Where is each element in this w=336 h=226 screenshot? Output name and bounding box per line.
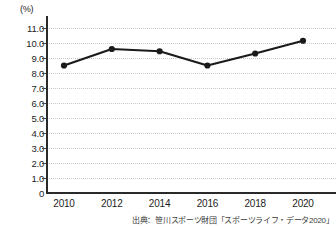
x-axis-tick-label: 2012 bbox=[101, 198, 122, 209]
gridline bbox=[46, 73, 336, 74]
gridline bbox=[46, 88, 336, 89]
y-axis-tick-label: 6.0 bbox=[2, 98, 44, 109]
gridline bbox=[46, 103, 336, 104]
y-axis-tick-label: 4.0 bbox=[2, 128, 44, 139]
gridline bbox=[46, 43, 336, 44]
y-axis-tick-label: 9.0 bbox=[2, 53, 44, 64]
y-axis-tick-label: 5.0 bbox=[2, 113, 44, 124]
x-axis-tick-label: 2010 bbox=[53, 198, 74, 209]
y-axis-tick-label: 11.0 bbox=[2, 23, 44, 34]
y-axis-unit-label: (%) bbox=[20, 4, 33, 14]
y-axis-tick-label: 7.0 bbox=[2, 83, 44, 94]
gridline bbox=[46, 28, 336, 29]
y-axis-tick-label: 0 bbox=[2, 188, 44, 199]
x-axis-line bbox=[46, 192, 336, 194]
x-axis-tick-label: 2018 bbox=[244, 198, 265, 209]
y-axis-tick-label: 8.0 bbox=[2, 68, 44, 79]
plot-area bbox=[46, 18, 336, 193]
y-axis-labels: 11.010.09.08.07.06.05.04.03.02.01.00 bbox=[0, 18, 44, 193]
y-axis-tick-label: 2.0 bbox=[2, 158, 44, 169]
y-axis-tick-label: 1.0 bbox=[2, 173, 44, 184]
gridline bbox=[46, 178, 336, 179]
y-axis-tick-label: 3.0 bbox=[2, 143, 44, 154]
gridline bbox=[46, 148, 336, 149]
chart-screenshot: (%) 11.010.09.08.07.06.05.04.03.02.01.00… bbox=[0, 0, 336, 226]
source-note: 出典：笹川スポーツ財団「スポーツライフ・データ2020」 bbox=[132, 214, 336, 225]
gridline bbox=[46, 163, 336, 164]
gridline bbox=[46, 133, 336, 134]
gridline bbox=[46, 58, 336, 59]
x-axis-tick-label: 2016 bbox=[197, 198, 218, 209]
gridline bbox=[46, 118, 336, 119]
y-axis-tick-label: 10.0 bbox=[2, 38, 44, 49]
y-axis-line bbox=[46, 16, 48, 194]
x-axis-tick-label: 2020 bbox=[292, 198, 313, 209]
x-axis-tick-label: 2014 bbox=[149, 198, 170, 209]
